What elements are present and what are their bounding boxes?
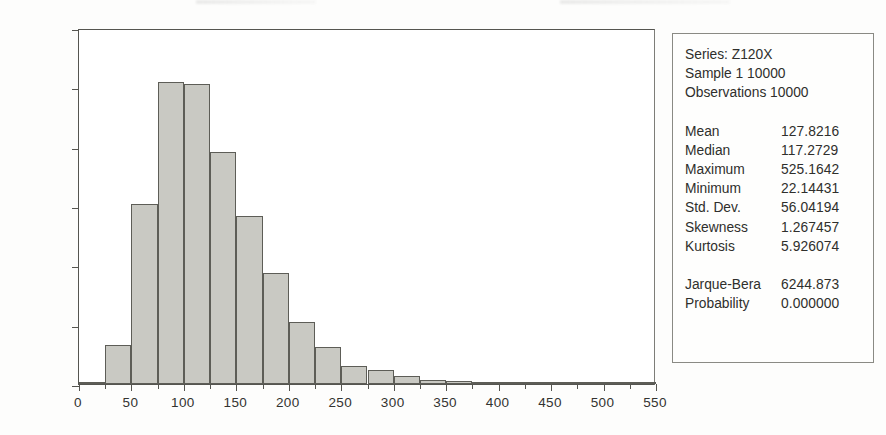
y-axis-tick: [72, 386, 79, 387]
statistic-value: 117.2729: [781, 141, 838, 160]
x-axis-minor-tick: [630, 384, 631, 389]
statistic-value: 22.14431: [781, 179, 839, 198]
statistics-header-line: Observations 10000: [685, 83, 873, 102]
statistic-row: Minimum22.14431: [685, 179, 873, 198]
histogram-bar: [499, 382, 525, 384]
x-axis-minor-tick: [525, 384, 526, 389]
statistic-label: Maximum: [685, 160, 781, 179]
x-axis-tick: [131, 384, 132, 391]
x-axis-minor-tick: [368, 384, 369, 389]
statistic-label: Mean: [685, 122, 781, 141]
statistic-label: Skewness: [685, 218, 781, 237]
histogram-bar: [394, 376, 420, 384]
x-axis-tick-label: 500: [591, 396, 615, 410]
histogram-bar: [184, 84, 210, 384]
x-axis-minor-tick: [263, 384, 264, 389]
x-axis-tick-label: 450: [538, 396, 562, 410]
x-axis-tick: [79, 384, 80, 391]
statistic-label: Minimum: [685, 179, 781, 198]
x-axis-tick-label: 400: [486, 396, 510, 410]
x-axis-tick-label: 550: [643, 396, 667, 410]
x-axis-minor-tick: [210, 384, 211, 389]
statistic-label: Probability: [685, 294, 781, 313]
histogram-bar: [577, 382, 603, 384]
y-axis-tick: [72, 30, 79, 31]
x-axis-tick-label: 200: [276, 396, 300, 410]
statistic-value: 127.8216: [781, 122, 839, 141]
x-axis-minor-tick: [315, 384, 316, 389]
histogram-bar: [210, 152, 236, 384]
histogram-bar: [420, 380, 446, 384]
statistics-header-line: Series: Z120X: [685, 45, 873, 64]
statistic-test-row: Probability0.000000: [685, 294, 873, 313]
histogram-bar: [341, 366, 367, 384]
x-axis-tick-label: 300: [381, 396, 405, 410]
statistic-row: Std. Dev.56.04194: [685, 198, 873, 217]
histogram-bars: [79, 30, 654, 384]
x-axis-tick: [394, 384, 395, 391]
x-axis-tick-label: 100: [171, 396, 195, 410]
histogram-bar: [315, 347, 341, 384]
x-axis-tick: [604, 384, 605, 391]
plot-frame: [78, 29, 655, 385]
statistic-value: 525.1642: [781, 160, 839, 179]
statistic-value: 56.04194: [781, 198, 839, 217]
x-axis-minor-tick: [577, 384, 578, 389]
statistic-row: Mean127.8216: [685, 122, 873, 141]
x-axis-minor-tick: [472, 384, 473, 389]
y-axis-tick: [72, 149, 79, 150]
statistic-value: 1.267457: [781, 218, 839, 237]
statistics-rows: Mean127.8216Median117.2729Maximum525.164…: [685, 122, 873, 256]
histogram-bar: [263, 273, 289, 384]
histogram-bar: [105, 345, 131, 384]
statistic-row: Kurtosis5.926074: [685, 237, 873, 256]
x-axis-tick: [446, 384, 447, 391]
x-axis-tick-label: 150: [223, 396, 247, 410]
statistic-value: 5.926074: [781, 237, 839, 256]
y-axis-tick: [72, 89, 79, 90]
statistic-label: Kurtosis: [685, 237, 781, 256]
statistic-row: Skewness1.267457: [685, 218, 873, 237]
x-axis-tick-label: 0: [74, 396, 82, 410]
x-axis-tick: [289, 384, 290, 391]
statistic-row: Maximum525.1642: [685, 160, 873, 179]
histogram-bar: [131, 204, 157, 384]
statistic-value: 6244.873: [781, 275, 839, 294]
x-axis-tick-label: 50: [123, 396, 139, 410]
statistics-spacer-1: [685, 103, 873, 122]
x-axis-tick: [184, 384, 185, 391]
x-axis-tick: [499, 384, 500, 391]
statistic-test-row: Jarque-Bera6244.873: [685, 275, 873, 294]
histogram-bar: [79, 382, 105, 384]
x-axis-tick-label: 350: [433, 396, 457, 410]
histogram-bar: [368, 370, 394, 384]
histogram-bar: [525, 382, 551, 384]
x-axis-tick: [236, 384, 237, 391]
histogram-figure: 04008001,2001,6002,0002,400 050100150200…: [0, 0, 886, 435]
x-axis-minor-tick: [105, 384, 106, 389]
histogram-bar: [289, 322, 315, 384]
statistics-spacer-2: [685, 256, 873, 275]
statistics-header: Series: Z120XSample 1 10000Observations …: [685, 45, 873, 103]
statistics-panel: Series: Z120XSample 1 10000Observations …: [672, 33, 874, 363]
statistic-row: Median117.2729: [685, 141, 873, 160]
histogram-bar: [630, 382, 656, 384]
histogram-bar: [472, 382, 498, 384]
x-axis-tick: [551, 384, 552, 391]
statistic-label: Std. Dev.: [685, 198, 781, 217]
statistics-header-line: Sample 1 10000: [685, 64, 873, 83]
statistic-value: 0.000000: [781, 294, 839, 313]
chart-area: 04008001,2001,6002,0002,400 050100150200…: [0, 0, 668, 435]
histogram-bar: [604, 382, 630, 384]
y-axis-tick: [72, 208, 79, 209]
x-axis-tick-label: 250: [328, 396, 352, 410]
histogram-bar: [158, 82, 184, 384]
x-axis-minor-tick: [420, 384, 421, 389]
x-axis-tick: [656, 384, 657, 391]
y-axis-tick: [72, 267, 79, 268]
x-axis-tick: [341, 384, 342, 391]
statistic-label: Median: [685, 141, 781, 160]
x-axis-minor-tick: [158, 384, 159, 389]
histogram-bar: [551, 382, 577, 384]
statistic-label: Jarque-Bera: [685, 275, 781, 294]
